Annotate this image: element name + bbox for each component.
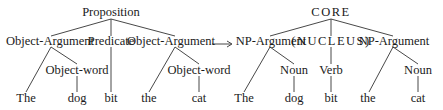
left-leaf-dog: dog: [68, 91, 87, 105]
left-object-word-2: Object-word: [167, 63, 230, 77]
tree-edges: [0, 0, 443, 110]
left-root-label: Proposition: [82, 5, 140, 19]
right-noun-1: Noun: [280, 63, 308, 77]
left-leaf-the-2: the: [141, 91, 156, 105]
right-leaf-dog: dog: [285, 91, 304, 105]
right-root-label: CORE: [311, 5, 350, 19]
left-leaf-bit: bit: [104, 91, 117, 105]
right-verb: Verb: [319, 63, 343, 77]
left-leaf-cat: cat: [192, 91, 207, 105]
left-object-word-1: Object-word: [45, 63, 108, 77]
right-leaf-cat: cat: [411, 91, 426, 105]
left-object-argument-1: Object-Argument: [6, 34, 94, 48]
right-leaf-bit: bit: [324, 91, 337, 105]
right-leaf-the-2: the: [360, 91, 375, 105]
right-noun-2: Noun: [404, 63, 432, 77]
left-object-argument-2: Object-Argument: [127, 34, 215, 48]
right-leaf-the: The: [234, 91, 253, 105]
syntax-tree-comparison-diagram: Proposition Object-Argument Predicate Ob…: [0, 0, 443, 110]
right-np-argument-2: NP-Argument: [359, 34, 430, 48]
left-leaf-the: The: [16, 91, 35, 105]
